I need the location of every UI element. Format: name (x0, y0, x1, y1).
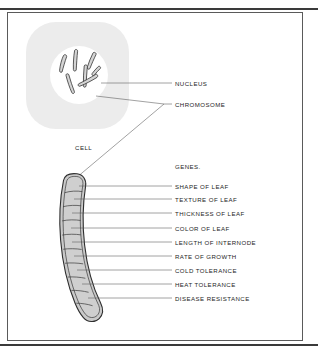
gene-label-color-of-leaf: COLOR OF LEAF (175, 225, 230, 232)
gene-label-shape-of-leaf: SHAPE OF LEAF (175, 183, 229, 190)
magnified-chromosome (60, 174, 103, 322)
diagram-canvas (0, 0, 318, 354)
gene-label-heat-tolerance: HEAT TOLERANCE (175, 281, 236, 288)
gene-label-length-of-internode: LENGTH OF INTERNODE (175, 239, 256, 246)
label-nucleus: NUCLEUS (175, 80, 207, 87)
gene-label-texture-of-leaf: TEXTURE OF LEAF (175, 196, 237, 203)
gene-label-disease-resistance: DISEASE RESISTANCE (175, 295, 250, 302)
gene-label-thickness-of-leaf: THICKNESS OF LEAF (175, 210, 245, 217)
label-cell: CELL (75, 144, 92, 151)
gene-label-rate-of-growth: RATE OF GROWTH (175, 253, 237, 260)
label-chromosome: CHROMOSOME (175, 101, 225, 108)
gene-label-cold-tolerance: COLD TOLERANCE (175, 267, 237, 274)
diagram-page: NUCLEUS CHROMOSOME CELL GENES. SHAPE OF … (0, 0, 318, 354)
label-genes-heading: GENES. (175, 163, 201, 170)
nucleus-shape (50, 46, 108, 104)
